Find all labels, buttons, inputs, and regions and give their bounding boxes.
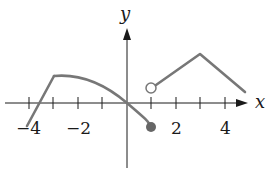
tick-label-neg2: −2 bbox=[66, 118, 91, 138]
curve-piece-3 bbox=[156, 54, 245, 92]
tick-label-4: 4 bbox=[220, 118, 231, 138]
y-axis-label: y bbox=[119, 3, 131, 24]
tick-label-2: 2 bbox=[171, 118, 182, 138]
y-axis-arrow-icon bbox=[123, 28, 131, 40]
function-graph: −4 −2 2 4 x y bbox=[0, 0, 272, 169]
open-endpoint-marker bbox=[146, 83, 156, 93]
x-axis-arrow-icon bbox=[236, 99, 248, 107]
closed-endpoint-marker bbox=[146, 122, 156, 132]
x-axis-label: x bbox=[255, 91, 265, 112]
